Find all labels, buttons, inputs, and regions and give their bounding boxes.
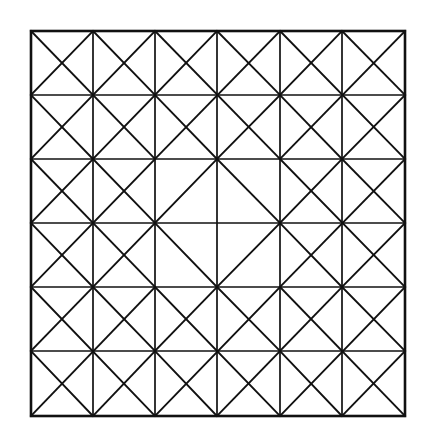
geometric-diagram: Diamond-in-square geometric lattice bbox=[0, 0, 427, 435]
